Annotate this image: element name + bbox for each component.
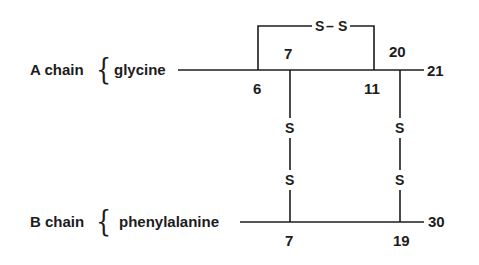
b-chain-n-terminal-residue: phenylalanine xyxy=(119,214,219,229)
b-position-19: 19 xyxy=(393,233,410,248)
b-position-7: 7 xyxy=(285,233,293,248)
b19-sulfur: S xyxy=(395,173,404,187)
b-chain-brace: { xyxy=(96,206,111,236)
a-position-11: 11 xyxy=(364,81,380,96)
a-chain-label: A chain xyxy=(30,62,84,77)
a7-sulfur: S xyxy=(285,121,294,135)
insulin-disulfide-diagram: A chain { glycine S – S 7 20 21 6 11 S S… xyxy=(0,0,479,265)
a-position-7: 7 xyxy=(284,46,292,61)
b-chain-label: B chain xyxy=(30,214,84,229)
a-intrachain-sulfur-1: S xyxy=(315,19,324,33)
b7-sulfur: S xyxy=(285,173,294,187)
a-position-6: 6 xyxy=(253,81,261,96)
a-position-21: 21 xyxy=(427,63,444,78)
a20-sulfur: S xyxy=(395,121,404,135)
a11-loop-line xyxy=(350,26,374,70)
a-chain-n-terminal-residue: glycine xyxy=(114,62,166,77)
a-position-20: 20 xyxy=(389,44,406,59)
b-position-30: 30 xyxy=(428,214,445,229)
a-chain-brace: { xyxy=(96,54,111,84)
a-intrachain-sulfur-2: S xyxy=(338,19,347,33)
a-intrachain-bond-dash: – xyxy=(326,19,334,33)
